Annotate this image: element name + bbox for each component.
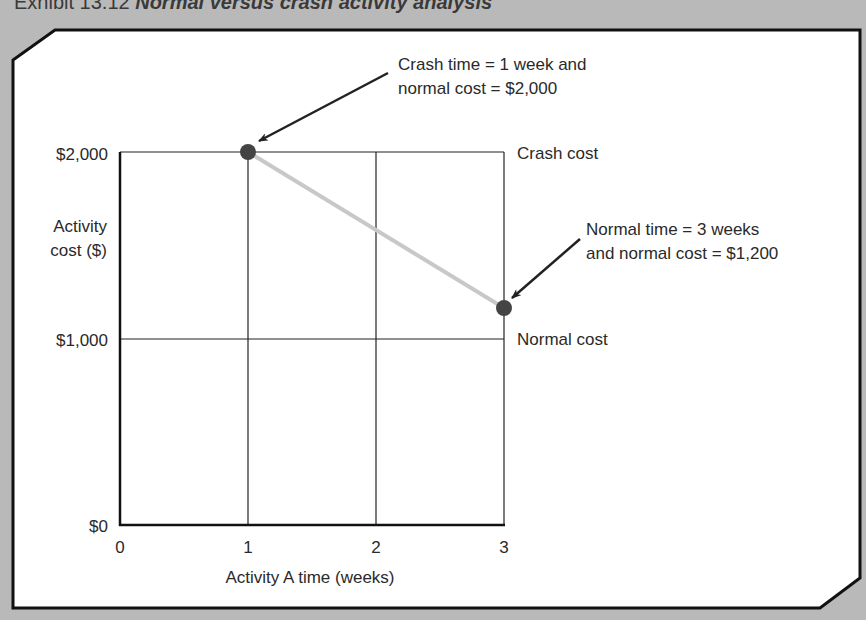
crash-note-line2: normal cost = $2,000	[398, 79, 557, 98]
x-tick-2: 2	[371, 538, 380, 557]
x-axis-title: Activity A time (weeks)	[225, 568, 394, 587]
x-tick-1: 1	[243, 538, 252, 557]
crash-note-line1: Crash time = 1 week and	[398, 55, 587, 74]
y-axis-title-line1: Activity	[53, 217, 107, 236]
y-tick-0: $0	[89, 517, 108, 536]
y-axis-title-line2: cost ($)	[50, 241, 107, 260]
crash-cost-label: Crash cost	[517, 144, 599, 163]
normal-cost-label: Normal cost	[517, 330, 608, 349]
x-tick-0: 0	[115, 538, 124, 557]
normal-note-line2: and normal cost = $1,200	[586, 244, 778, 263]
x-tick-3: 3	[499, 538, 508, 557]
crash-point-marker	[240, 144, 256, 160]
y-tick-1000: $1,000	[56, 331, 108, 350]
normal-note-line1: Normal time = 3 weeks	[586, 220, 759, 239]
y-tick-2000: $2,000	[56, 145, 108, 164]
normal-point-marker	[496, 300, 512, 316]
chart-panel	[13, 30, 860, 608]
chart-figure: $2,000 $1,000 $0 Activity cost ($) 0 1 2…	[0, 0, 866, 620]
